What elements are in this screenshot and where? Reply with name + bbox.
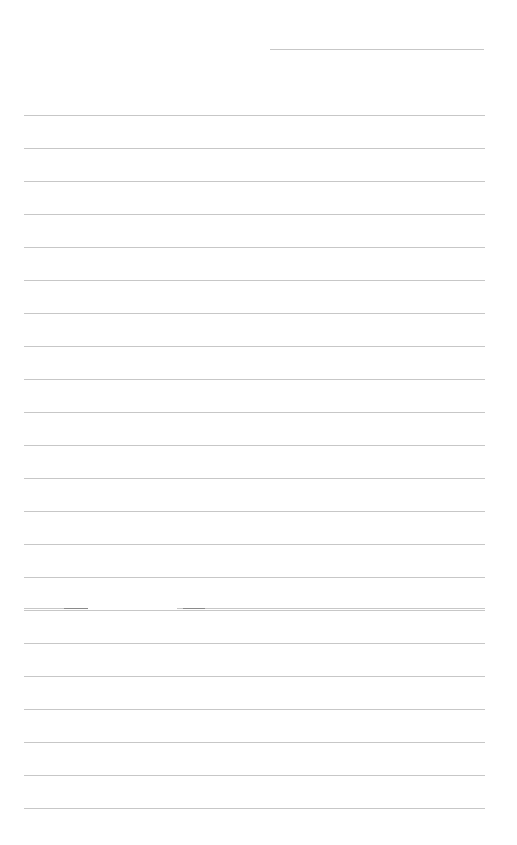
ruled-line <box>24 346 485 347</box>
ruled-line <box>24 181 485 182</box>
ruled-line <box>24 478 485 479</box>
ruled-line <box>24 544 485 545</box>
ruled-line <box>24 676 485 677</box>
ruled-line <box>24 247 485 248</box>
ruled-line <box>24 511 485 512</box>
ruled-line <box>24 577 485 578</box>
ruled-line <box>24 115 485 116</box>
ruled-line <box>24 379 485 380</box>
ruled-line <box>24 808 485 809</box>
ruled-line <box>24 445 485 446</box>
ruled-line <box>24 148 485 149</box>
ruled-line <box>24 412 485 413</box>
ruled-line <box>24 742 485 743</box>
ruled-line <box>24 610 485 611</box>
ruled-line <box>24 643 485 644</box>
ruled-line <box>24 709 485 710</box>
ruled-line-segment <box>177 608 485 609</box>
header-rule-line <box>270 49 484 50</box>
ruled-line <box>24 280 485 281</box>
ruled-line <box>24 214 485 215</box>
lined-paper-page <box>0 0 517 845</box>
ruled-line <box>24 313 485 314</box>
ruled-line-mark <box>183 608 205 609</box>
ruled-line-mark <box>64 608 88 609</box>
ruled-line <box>24 775 485 776</box>
